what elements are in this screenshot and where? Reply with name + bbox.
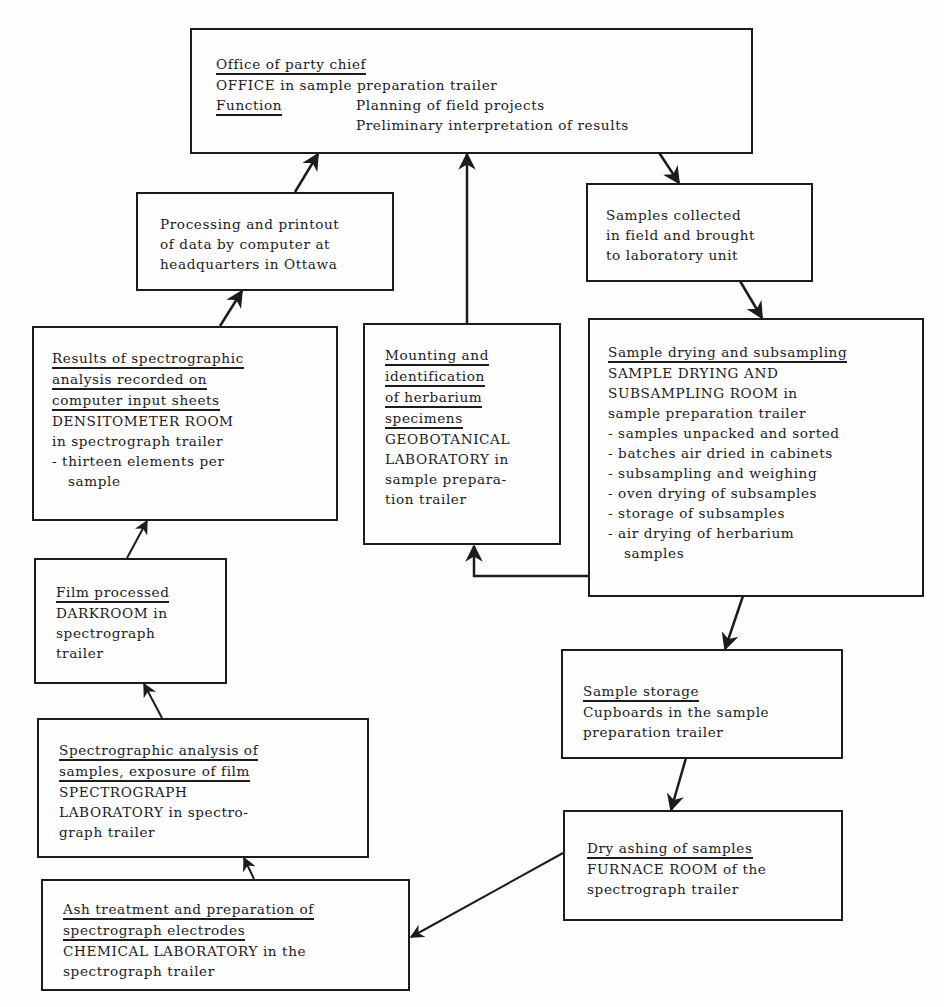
ash-treatment-location-1: CHEMICAL LABORATORY in the [63, 941, 314, 961]
film-location-1: DARKROOM in [56, 603, 169, 623]
processing-line-1: Processing and printout [160, 214, 339, 234]
film-box: Film processed DARKROOM in spectrograph … [34, 558, 227, 684]
sample-drying-box: Sample drying and subsampling SAMPLE DRY… [588, 318, 924, 597]
mounting-location-2: LABORATORY in [385, 449, 510, 469]
samples-collected-line-3: to laboratory unit [606, 245, 755, 265]
results-heading-3: computer input sheets [52, 391, 220, 411]
arrow-dry-ashing-to-ash-treatment [411, 853, 563, 937]
office-function-label: Function [216, 96, 282, 116]
spectrographic-heading-1: Spectrographic analysis of [59, 741, 258, 761]
sample-drying-bullet-1: - samples unpacked and sorted [608, 423, 847, 443]
arrow-drying-to-storage [725, 596, 743, 649]
ash-treatment-heading-1: Ash treatment and preparation of [63, 900, 314, 920]
results-heading-2: analysis recorded on [52, 370, 207, 390]
samples-collected-box: Samples collected in field and brought t… [586, 183, 813, 282]
spectrographic-location-1: SPECTROGRAPH [59, 782, 258, 802]
results-location-1: DENSITOMETER ROOM [52, 411, 258, 431]
spectrographic-location-2: LABORATORY in spectro- [59, 802, 258, 822]
mounting-heading-1: Mounting and [385, 346, 489, 366]
spectrographic-heading-2: samples, exposure of film [59, 762, 250, 782]
results-bullet-1: - thirteen elements per sample [52, 451, 258, 491]
sample-storage-heading: Sample storage [583, 682, 699, 702]
office-box: Office of party chief OFFICE in sample p… [190, 28, 753, 154]
arrow-spectrographic-to-film [144, 684, 162, 718]
dry-ashing-location-2: spectrograph trailer [587, 879, 766, 899]
mounting-heading-4: specimens [385, 409, 463, 429]
office-function-1: Planning of field projects [356, 95, 629, 115]
arrow-storage-to-dry-ashing [671, 758, 686, 810]
sample-drying-bullet-3: - subsampling and weighing [608, 463, 847, 483]
results-box: Results of spectrographic analysis recor… [32, 326, 338, 521]
mounting-location-3: sample prepara- [385, 469, 510, 489]
dry-ashing-heading: Dry ashing of samples [587, 839, 753, 859]
arrow-ash-to-spectrographic [244, 858, 254, 879]
mounting-heading-2: identification [385, 367, 485, 387]
dry-ashing-location-1: FURNACE ROOM of the [587, 859, 766, 879]
mounting-location-4: tion trailer [385, 489, 510, 509]
sample-storage-location-1: Cupboards in the sample [583, 702, 769, 722]
results-location-2: in spectrograph trailer [52, 431, 258, 451]
sample-drying-location-1: SAMPLE DRYING AND [608, 363, 847, 383]
spectrographic-location-3: graph trailer [59, 822, 258, 842]
office-heading: Office of party chief [216, 55, 366, 75]
arrow-samples-collected-to-drying [740, 281, 762, 318]
film-heading: Film processed [56, 583, 169, 603]
processing-line-3: headquarters in Ottawa [160, 254, 339, 274]
film-location-3: trailer [56, 643, 169, 663]
sample-drying-bullet-5: - storage of subsamples [608, 503, 847, 523]
processing-line-2: of data by computer at [160, 234, 339, 254]
arrow-processing-to-office [295, 154, 318, 192]
ash-treatment-box: Ash treatment and preparation of spectro… [41, 879, 410, 991]
sample-drying-location-3: sample preparation trailer [608, 403, 847, 423]
samples-collected-line-2: in field and brought [606, 225, 755, 245]
processing-box: Processing and printout of data by compu… [136, 192, 394, 291]
sample-storage-location-2: preparation trailer [583, 722, 769, 742]
mounting-box: Mounting and identification of herbarium… [363, 323, 561, 545]
samples-collected-line-1: Samples collected [606, 205, 755, 225]
sample-drying-bullet-4: - oven drying of subsamples [608, 483, 847, 503]
mounting-heading-3: of herbarium [385, 388, 482, 408]
sample-drying-bullet-6: - air drying of herbarium samples [608, 523, 844, 563]
ash-treatment-location-2: spectrograph trailer [63, 961, 314, 981]
spectrographic-box: Spectrographic analysis of samples, expo… [37, 718, 369, 858]
sample-drying-heading: Sample drying and subsampling [608, 343, 847, 363]
arrow-drying-to-mounting [474, 546, 588, 576]
film-location-2: spectrograph [56, 623, 169, 643]
results-heading-1: Results of spectrographic [52, 349, 244, 369]
arrow-film-to-results [127, 521, 147, 558]
sample-drying-location-2: SUBSAMPLING ROOM in [608, 383, 847, 403]
arrow-results-to-processing [220, 291, 242, 326]
mounting-location-1: GEOBOTANICAL [385, 429, 510, 449]
sample-storage-box: Sample storage Cupboards in the sample p… [561, 649, 843, 759]
sample-drying-bullet-2: - batches air dried in cabinets [608, 443, 847, 463]
ash-treatment-heading-2: spectrograph electrodes [63, 921, 245, 941]
dry-ashing-box: Dry ashing of samples FURNACE ROOM of th… [563, 810, 843, 921]
office-location: OFFICE in sample preparation trailer [216, 75, 629, 95]
office-function-2: Preliminary interpretation of results [356, 115, 629, 135]
